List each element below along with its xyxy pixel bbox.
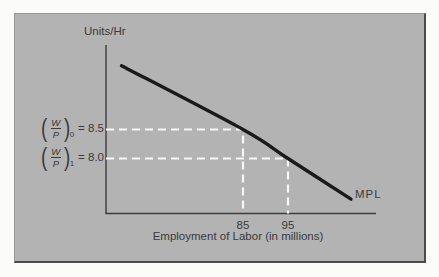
curve-label: MPL	[355, 188, 382, 200]
real-wage-label-0: ( W P ) 0 = 8.5	[40, 116, 104, 141]
fraction-numerator: W	[49, 147, 62, 158]
close-paren: )	[64, 116, 70, 141]
subscript: 1	[70, 160, 74, 168]
open-paren: (	[41, 116, 47, 141]
open-paren: (	[41, 145, 47, 170]
fraction-denominator: P	[51, 128, 61, 140]
x-axis-label: Employment of Labor (in millions)	[153, 230, 324, 242]
fraction-numerator: W	[49, 118, 62, 129]
fraction-denominator: P	[51, 157, 61, 169]
real-wage-label-1: ( W P ) 1 = 8.0	[40, 145, 104, 170]
mpl-curve	[122, 66, 352, 199]
w-over-p-fraction: W P	[49, 147, 62, 169]
reference-dashes-0	[106, 130, 243, 214]
equals-value: = 8.0	[78, 152, 104, 164]
y-axis-label: Units/Hr	[84, 25, 126, 37]
close-paren: )	[64, 145, 70, 170]
equals-value: = 8.5	[78, 123, 104, 135]
w-over-p-fraction: W P	[49, 118, 62, 140]
subscript: 0	[70, 131, 74, 139]
reference-dashes-1	[106, 159, 288, 214]
figure: 8595 Units/Hr Employment of Labor (in mi…	[0, 0, 439, 277]
